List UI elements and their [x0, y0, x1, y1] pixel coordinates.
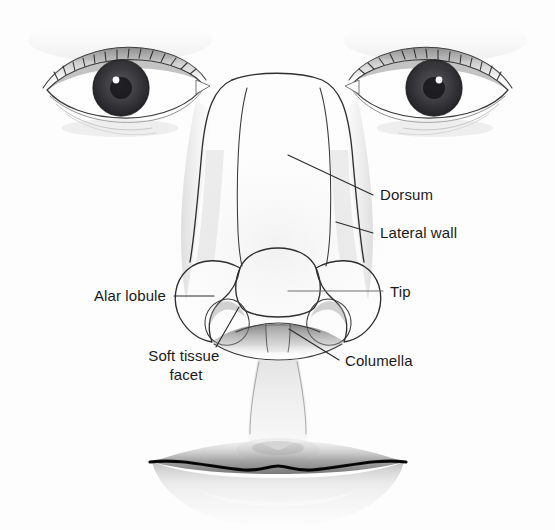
anatomy-illustration: Dorsum Lateral wall Alar lobule Tip Soft…: [0, 0, 555, 530]
label-columella: Columella: [345, 352, 413, 369]
label-soft-tissue-facet-line1: Soft tissue: [148, 347, 219, 364]
left-eye-catchlight: [113, 77, 120, 84]
label-dorsum: Dorsum: [380, 186, 433, 203]
label-soft-tissue-facet-line2: facet: [169, 366, 203, 383]
right-eye-catchlight: [436, 77, 443, 84]
anatomy-figure: Dorsum Lateral wall Alar lobule Tip Soft…: [0, 0, 555, 530]
label-tip: Tip: [390, 283, 411, 300]
label-lateral-wall: Lateral wall: [380, 224, 457, 241]
label-alar-lobule: Alar lobule: [94, 287, 166, 304]
